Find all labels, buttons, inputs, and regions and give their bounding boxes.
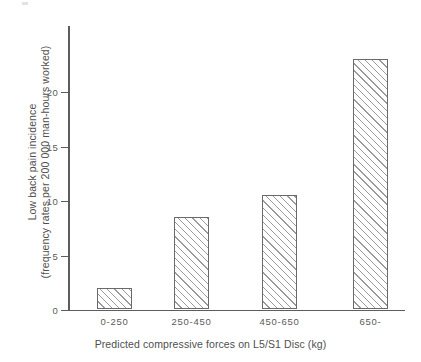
y-tick-mark-10 bbox=[61, 201, 69, 202]
x-axis-line bbox=[68, 310, 405, 312]
y-axis-title: Low back pain incidence (frequency rates… bbox=[14, 38, 48, 286]
y-tick-label-10: 10 bbox=[32, 196, 58, 207]
bar-250-450 bbox=[174, 217, 209, 310]
y-tick-label-20: 20 bbox=[32, 87, 58, 98]
x-tick-label-0-250: 0-250 bbox=[84, 316, 145, 327]
y-tick-mark-0 bbox=[61, 310, 69, 311]
y-tick-label-15: 15 bbox=[32, 142, 58, 153]
x-tick-label-250-450: 250-450 bbox=[161, 316, 222, 327]
y-tick-mark-15 bbox=[61, 147, 69, 148]
y-tick-mark-5 bbox=[61, 256, 69, 257]
x-tick-label-650-plus: 650- bbox=[340, 316, 401, 327]
y-tick-label-0: 0 bbox=[32, 305, 58, 316]
bar-0-250 bbox=[97, 288, 132, 310]
bar-650-plus bbox=[353, 59, 388, 310]
y-axis-title-line-2: (frequency rates per 200 000 man-hours w… bbox=[39, 38, 287, 286]
scan-artifact bbox=[22, 2, 28, 5]
y-tick-label-5: 5 bbox=[32, 251, 58, 262]
bar-450-650 bbox=[262, 195, 297, 309]
x-axis-title: Predicted compressive forces on L5/S1 Di… bbox=[0, 338, 421, 350]
y-tick-mark-20 bbox=[61, 92, 69, 93]
y-axis-line bbox=[68, 26, 70, 311]
x-tick-label-450-650: 450-650 bbox=[249, 316, 310, 327]
bar-chart-figure: Low back pain incidence (frequency rates… bbox=[0, 0, 421, 362]
